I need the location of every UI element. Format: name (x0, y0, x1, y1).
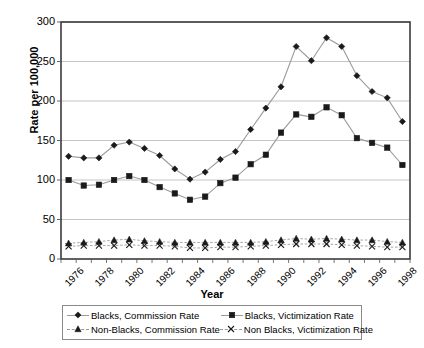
legend-row: Blacks, Commission Rate Blacks, Victimiz… (67, 308, 357, 322)
line-chart: Rate per 100,000 050100150200250300 1976… (0, 0, 424, 348)
diamond-marker-icon (67, 309, 89, 321)
legend-item-non-blacks-victimization-rate: Non Blacks, Victimization Rate (220, 323, 360, 335)
triangle-marker-icon (67, 323, 89, 335)
legend-item-non-blacks-commission-rate: Non-Blacks, Commission Rate (67, 323, 220, 335)
square-marker-icon (221, 309, 243, 321)
legend-item-blacks-commission-rate: Blacks, Commission Rate (67, 309, 221, 321)
series-diamond (65, 35, 405, 183)
legend-item-blacks-victimization-rate: Blacks, Victimization Rate (221, 309, 357, 321)
chart-legend: Blacks, Commission Rate Blacks, Victimiz… (62, 305, 362, 340)
legend-row: Non-Blacks, Commission Rate Non Blacks, … (67, 322, 357, 336)
legend-label: Non-Blacks, Commission Rate (91, 324, 220, 335)
legend-label: Blacks, Victimization Rate (245, 310, 354, 321)
legend-label: Non Blacks, Victimization Rate (244, 324, 373, 335)
series-triangle (65, 235, 405, 246)
legend-label: Blacks, Commission Rate (91, 310, 199, 321)
x-axis-title: Year (0, 288, 424, 300)
x-marker-icon (220, 323, 242, 335)
